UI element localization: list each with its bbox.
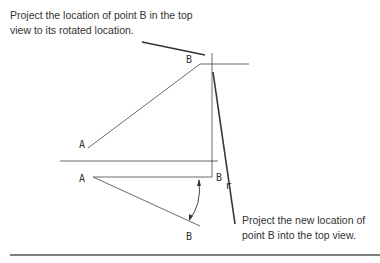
- label-top-br-sub: r: [225, 179, 232, 192]
- label-front-a: A: [79, 139, 85, 150]
- top-view-ab-line: [93, 177, 200, 226]
- projection-diagram: B A A B B r: [0, 0, 380, 263]
- label-top-br: B: [216, 172, 222, 183]
- label-top-b: B: [186, 231, 192, 242]
- bottom-leader-line: [213, 72, 235, 224]
- front-view-ab-line: [88, 64, 200, 148]
- label-top-a: A: [79, 173, 85, 184]
- arc-arrowhead-top: [197, 179, 201, 186]
- top-leader-line: [142, 42, 205, 55]
- label-front-b: B: [186, 54, 192, 65]
